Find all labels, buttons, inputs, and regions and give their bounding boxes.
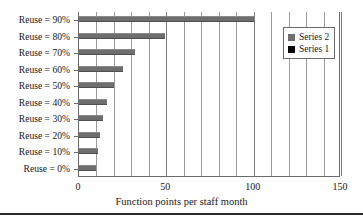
bar-row — [79, 144, 339, 161]
y-axis-labels: Reuse = 90%Reuse = 80%Reuse = 70%Reuse =… — [0, 12, 74, 177]
y-axis-label: Reuse = 90% — [19, 12, 70, 29]
bar-row — [79, 128, 339, 145]
y-axis-label: Reuse = 40% — [19, 95, 70, 112]
gridline-major — [341, 12, 342, 176]
x-axis-tick-label: 100 — [245, 180, 260, 194]
bottom-divider-rule — [0, 213, 363, 215]
bar-row — [79, 111, 339, 128]
bar — [79, 165, 96, 171]
y-axis-label: Reuse = 60% — [19, 62, 70, 79]
y-axis-label: Reuse = 50% — [19, 78, 70, 95]
y-axis-label: Reuse = 30% — [19, 111, 70, 128]
bar-row — [79, 62, 339, 79]
y-axis-label: Reuse = 20% — [19, 128, 70, 145]
bar — [79, 148, 98, 154]
legend-swatch-icon — [288, 34, 295, 41]
y-axis-label: Reuse = 70% — [19, 45, 70, 62]
x-axis-tick-label: 0 — [76, 180, 81, 194]
bar — [79, 16, 254, 22]
bar — [79, 49, 135, 55]
bar — [79, 99, 107, 105]
chart-figure: Reuse = 90%Reuse = 80%Reuse = 70%Reuse =… — [0, 0, 363, 224]
chart-legend: Series 2Series 1 — [283, 27, 335, 59]
y-axis-label: Reuse = 0% — [24, 161, 70, 178]
bar-row — [79, 95, 339, 112]
legend-swatch-icon — [288, 46, 295, 53]
bar — [79, 66, 123, 72]
bar — [79, 115, 103, 121]
legend-label: Series 2 — [299, 31, 329, 43]
x-axis-tick-label: 50 — [160, 180, 170, 194]
bar — [79, 132, 100, 138]
bar — [79, 82, 114, 88]
x-axis-tick-label: 150 — [333, 180, 348, 194]
y-axis-label: Reuse = 10% — [19, 144, 70, 161]
legend-item: Series 2 — [288, 31, 329, 43]
legend-item: Series 1 — [288, 43, 329, 55]
x-axis-title: Function points per staff month — [0, 196, 363, 207]
x-axis-tick-labels: 050100150 — [0, 180, 363, 196]
bar-row — [79, 161, 339, 178]
y-axis-label: Reuse = 80% — [19, 29, 70, 46]
bar-row — [79, 78, 339, 95]
bar — [79, 33, 165, 39]
legend-label: Series 1 — [299, 43, 329, 55]
